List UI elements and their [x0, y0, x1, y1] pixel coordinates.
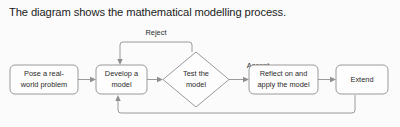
node-reflect-label-line1: Reflect on and	[260, 69, 308, 78]
edge-develop-to-test	[147, 77, 163, 82]
edge-pose-to-develop	[78, 77, 96, 82]
modelling-process-diagram: Accept Reject Pose a real- world problem	[0, 0, 400, 127]
node-test-label-line2: model	[186, 80, 206, 89]
node-extend: Extend	[336, 65, 388, 94]
node-reflect-label-line2: apply the model	[257, 80, 310, 89]
node-develop-a-model: Develop a model	[96, 65, 147, 94]
node-pose-label-line2: world problem	[20, 80, 67, 89]
diagram-page: The diagram shows the mathematical model…	[0, 0, 400, 127]
node-test-the-model: Test the model	[163, 52, 229, 107]
node-develop-label-line1: Develop a	[105, 69, 139, 78]
node-test-label-line1: Test the	[183, 69, 209, 78]
node-develop-label-line2: model	[111, 80, 131, 89]
edge-reflect-to-extend	[318, 77, 336, 82]
node-pose-label-line1: Pose a real-	[24, 69, 64, 78]
edge-extend-to-develop-feedback	[115, 95, 355, 113]
node-pose-real-world-problem: Pose a real- world problem	[10, 65, 78, 94]
node-reflect-and-apply: Reflect on and apply the model	[249, 65, 318, 94]
edge-test-to-develop-reject: Reject	[117, 28, 192, 65]
node-extend-label: Extend	[350, 75, 373, 84]
edge-label-reject: Reject	[146, 28, 167, 37]
